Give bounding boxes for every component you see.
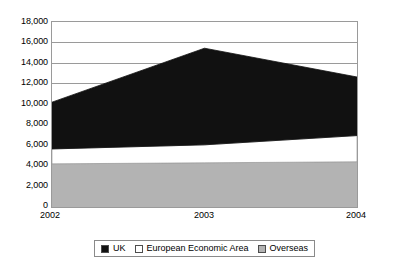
legend-swatch-uk-icon xyxy=(101,245,109,253)
y-tick-label: 18,000 xyxy=(2,17,48,26)
y-tick-label: 12,000 xyxy=(2,78,48,87)
legend-swatch-eea-icon xyxy=(135,245,143,253)
y-tick-label: 2,000 xyxy=(2,181,48,190)
legend-label-overseas: Overseas xyxy=(270,244,309,253)
legend-label-eea: European Economic Area xyxy=(147,244,249,253)
plot-area xyxy=(51,21,358,208)
y-axis: 18,000 16,000 14,000 12,000 10,000 8,000… xyxy=(0,0,48,268)
legend-item-uk: UK xyxy=(101,244,126,253)
legend-label-uk: UK xyxy=(113,244,126,253)
chart-legend: UK European Economic Area Overseas xyxy=(94,240,315,257)
x-axis: 2002 2003 2004 xyxy=(0,210,405,224)
area-series-overseas xyxy=(52,162,357,207)
x-tick-label: 2004 xyxy=(346,210,366,220)
area-series-uk xyxy=(52,48,357,149)
x-tick-label: 2003 xyxy=(194,210,214,220)
y-tick-label: 8,000 xyxy=(2,119,48,128)
y-tick-label: 10,000 xyxy=(2,99,48,108)
x-tick-label: 2002 xyxy=(40,210,60,220)
y-tick-label: 6,000 xyxy=(2,140,48,149)
y-tick-label: 14,000 xyxy=(2,58,48,67)
legend-item-eea: European Economic Area xyxy=(135,244,249,253)
legend-swatch-overseas-icon xyxy=(258,245,266,253)
stacked-area-chart: 18,000 16,000 14,000 12,000 10,000 8,000… xyxy=(0,0,405,268)
y-tick-label: 4,000 xyxy=(2,160,48,169)
series-layer xyxy=(52,22,357,207)
y-tick-label: 16,000 xyxy=(2,37,48,46)
y-tick-label: 0 xyxy=(2,201,48,210)
plot-inner xyxy=(52,22,357,207)
legend-item-overseas: Overseas xyxy=(258,244,309,253)
